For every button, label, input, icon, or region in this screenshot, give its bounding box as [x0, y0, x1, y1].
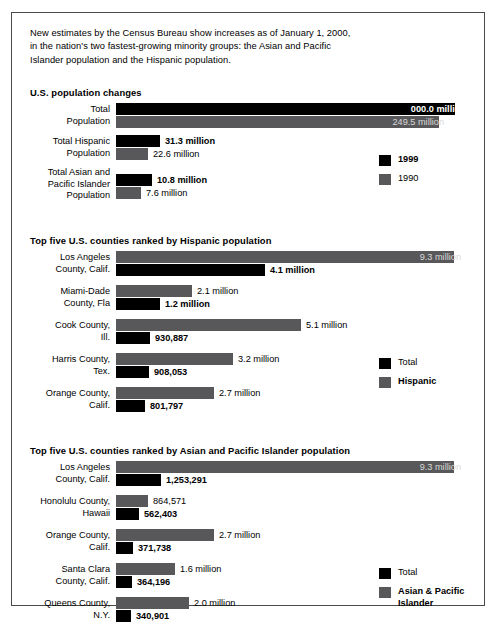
legend-label: Total	[398, 567, 417, 579]
bar-value: 340,901	[131, 610, 169, 622]
bar-1990: 249.5 million	[116, 116, 470, 128]
row-label: Orange County, Calif.	[30, 529, 116, 554]
bar-1999: 31.3 million	[116, 135, 470, 147]
bar-value: 864,571	[148, 495, 186, 507]
bar-total: 9.3 million	[116, 461, 470, 473]
label-line: Population	[30, 190, 110, 202]
bar-value: 930,887	[150, 332, 188, 344]
label-line: County, Fla	[30, 298, 110, 310]
row-label: Total Population	[30, 103, 116, 128]
row-bars: 5.1 million 930,887	[116, 319, 470, 344]
legend-swatch-icon	[379, 155, 391, 166]
row-bars: 2.7 million 371,738	[116, 529, 470, 554]
bar-value: 31.3 million	[160, 135, 215, 147]
bar-value: 9.3 million	[420, 461, 461, 473]
legend-label-multiline: Asian & Pacific Islander	[398, 586, 464, 609]
bar-rect	[116, 285, 192, 297]
label-line: Ill.	[30, 332, 110, 344]
section-asian-pacific-counties: Top five U.S. counties ranked by Asian a…	[30, 445, 470, 622]
bar-group: Total Population 000.0 million 249.5 mil…	[30, 103, 470, 128]
row-label: Miami-Dade County, Fla	[30, 285, 116, 310]
bar-rect	[116, 576, 132, 588]
bar-hispanic: 930,887	[116, 332, 470, 344]
label-line: Hawaii	[30, 508, 110, 520]
bar-rect	[116, 461, 454, 473]
bar-value: 2.0 million	[189, 597, 235, 609]
bar-rect	[116, 174, 152, 186]
legend-item: 1990	[379, 173, 418, 185]
bar-rect	[116, 495, 148, 507]
row-bars: 9.3 million 1,253,291	[116, 461, 470, 486]
label-line: Los Angeles	[30, 252, 110, 264]
bar-total: 2.7 million	[116, 529, 470, 541]
bar-rect	[116, 103, 455, 115]
bar-rect	[116, 563, 175, 575]
bar-total: 2.1 million	[116, 285, 470, 297]
bar-value: 9.3 million	[420, 251, 461, 263]
chart-legend: Total Asian & Pacific Islander	[379, 567, 464, 616]
bar-value: 1,253,291	[161, 474, 207, 486]
label-line: Harris County,	[30, 354, 110, 366]
bar-value: 7.6 million	[141, 187, 187, 199]
label-line: Population	[30, 116, 110, 128]
section-us-population-changes: U.S. population changes Total Population…	[30, 87, 470, 202]
label-line: Santa Clara	[30, 564, 110, 576]
label-line: Tex.	[30, 366, 110, 378]
legend-item: 1999	[379, 154, 418, 166]
bar-rect	[116, 116, 439, 128]
bar-rect	[116, 474, 161, 486]
row-label: Harris County, Tex.	[30, 353, 116, 378]
bar-rect	[116, 332, 150, 344]
legend-label-line2: Islander	[398, 598, 464, 610]
label-line: Total Hispanic	[30, 136, 110, 148]
bar-group: Los Angeles County, Calif. 9.3 million 4…	[30, 251, 470, 276]
intro-paragraph: New estimates by the Census Bureau show …	[30, 27, 430, 67]
bar-rect	[116, 387, 214, 399]
bar-value: 371,738	[133, 542, 171, 554]
intro-line-1: New estimates by the Census Bureau show …	[30, 27, 430, 40]
row-bars: 9.3 million 4.1 million	[116, 251, 470, 276]
row-label: Orange County, Calif.	[30, 387, 116, 412]
bar-total: 5.1 million	[116, 319, 470, 331]
bar-value: 364,196	[132, 576, 170, 588]
label-line: Los Angeles	[30, 462, 110, 474]
bar-value: 10.8 million	[152, 174, 207, 186]
row-bars: 864,571 562,403	[116, 495, 470, 520]
legend-label: 1999	[398, 154, 418, 166]
label-line: Pacific Islander	[30, 179, 110, 191]
bar-value: 3.2 million	[233, 353, 279, 365]
bar-hispanic: 801,797	[116, 400, 470, 412]
bar-rect	[116, 319, 301, 331]
label-line: County, Calif.	[30, 576, 110, 588]
bar-rect	[116, 148, 148, 160]
bar-value: 000.0 million	[411, 103, 466, 115]
intro-line-3: Islander population and the Hispanic pop…	[30, 54, 430, 67]
row-label: Honolulu County, Hawaii	[30, 495, 116, 520]
row-label: Cook County, Ill.	[30, 319, 116, 344]
legend-swatch-icon	[379, 358, 391, 369]
bar-rect	[116, 251, 454, 263]
bar-value: 4.1 million	[265, 264, 315, 276]
label-line: Total	[30, 104, 110, 116]
legend-item: Total	[379, 567, 464, 579]
bar-asian-pacific: 371,738	[116, 542, 470, 554]
label-line: Miami-Dade	[30, 286, 110, 298]
legend-swatch-icon	[379, 568, 391, 579]
bar-value: 22.6 million	[148, 148, 199, 160]
bar-rect	[116, 610, 131, 622]
bar-group: Miami-Dade County, Fla 2.1 million 1.2 m…	[30, 285, 470, 310]
bar-total: 864,571	[116, 495, 470, 507]
label-line: Orange County,	[30, 530, 110, 542]
bar-value: 1.6 million	[175, 563, 221, 575]
row-label: Santa Clara County, Calif.	[30, 563, 116, 588]
bar-total: 9.3 million	[116, 251, 470, 263]
bar-rect	[116, 135, 160, 147]
section-hispanic-counties: Top five U.S. counties ranked by Hispani…	[30, 235, 470, 412]
row-label: Los Angeles County, Calif.	[30, 461, 116, 486]
label-line: Calif.	[30, 542, 110, 554]
legend-swatch-icon	[379, 377, 391, 388]
legend-item: Total	[379, 357, 436, 369]
bar-rect	[116, 353, 233, 365]
bar-hispanic: 1.2 million	[116, 298, 470, 310]
bar-rect	[116, 298, 160, 310]
